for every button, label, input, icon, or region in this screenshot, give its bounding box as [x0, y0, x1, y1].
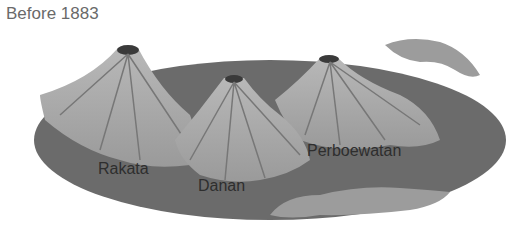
label-danan: Danan — [198, 177, 245, 195]
islet-northeast — [385, 39, 480, 77]
krakatoa-illustration — [0, 0, 506, 228]
label-perboewatan: Perboewatan — [307, 142, 401, 160]
label-rakata: Rakata — [98, 160, 149, 178]
